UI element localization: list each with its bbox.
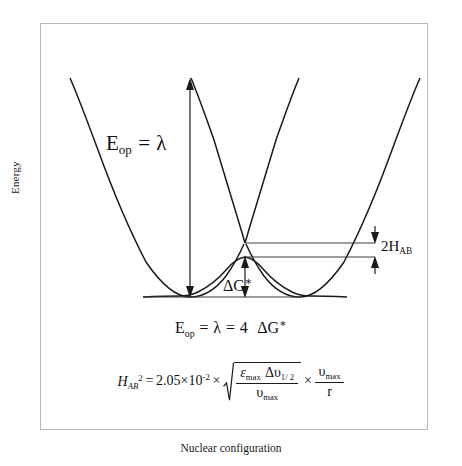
tail-fraction: υmax r (315, 364, 345, 401)
formula-equals: = (145, 373, 153, 388)
relation-star: ∗ (279, 317, 287, 329)
relation-coefficient: 4 (240, 319, 248, 336)
left-diabatic-parabola (70, 78, 244, 297)
radical-fraction: εmaxΔυ1/ 2 υmax (236, 365, 298, 402)
formula-times-1: × (181, 373, 189, 388)
coupling-arrow-lower-head (371, 256, 379, 268)
relation-e: E (175, 319, 185, 336)
relation-lambda: λ (213, 319, 221, 336)
delta-nu-symbol: Δυ (265, 365, 281, 380)
formula-lhs: HAB2 (118, 374, 143, 391)
delta-g-star: ∗ (245, 275, 253, 287)
energy-relation-equation: Eop=λ=4ΔG∗ (0, 318, 462, 338)
formula-times-3: × (304, 373, 312, 388)
formula-h-symbol: H (118, 374, 128, 389)
delta-g-symbol: ΔG (223, 277, 245, 294)
eop-e: E (106, 131, 119, 155)
coupling-label: 2HAB (381, 239, 412, 256)
radical-contents: εmaxΔυ1/ 2 υmax (234, 362, 301, 402)
relation-delta-g: ΔG (257, 319, 279, 336)
formula-coefficient: 2.05 (156, 373, 181, 388)
formula-h-subscript: AB (128, 381, 139, 391)
upper-adiabatic-left-branch (191, 78, 245, 243)
coupling-subscript: AB (399, 246, 412, 256)
formula-h-exponent: 2 (138, 373, 142, 383)
coupling-formula: HAB2 =2.05×10-2× εmaxΔυ1/ 2 υmax × υmax … (0, 362, 462, 402)
relation-e-subscript: op (185, 328, 195, 339)
radical-numerator: εmaxΔυ1/ 2 (236, 365, 298, 384)
eop-lambda: λ (156, 131, 166, 155)
energy-diagram-figure: Energy Nuclear configuration Eop=λ 2HAB … (0, 0, 462, 466)
formula-exponent: -2 (203, 372, 210, 382)
coupling-value: 2H (381, 238, 399, 254)
formula-radical: εmaxΔυ1/ 2 υmax (223, 362, 301, 402)
formula-times-2: × (213, 373, 221, 388)
tail-numerator: υmax (315, 364, 345, 383)
optical-transition-label: Eop=λ (106, 133, 166, 156)
tail-denominator: r (315, 383, 345, 401)
activation-barrier-label: ΔG∗ (223, 276, 253, 294)
y-axis-title: Energy (10, 161, 21, 194)
formula-base: 10 (189, 373, 203, 388)
tail-nu-subscript: max (326, 371, 341, 381)
nu-max-subscript: max (263, 392, 278, 402)
relation-equals-1: = (200, 319, 209, 336)
x-axis-title: Nuclear configuration (0, 443, 462, 455)
radical-denominator: υmax (236, 384, 298, 402)
delta-nu-subscript: 1/ 2 (281, 372, 294, 382)
eop-equals: = (138, 131, 150, 155)
right-diabatic-parabola (246, 78, 420, 297)
relation-equals-2: = (226, 319, 235, 336)
coupling-arrow-upper-head (371, 232, 379, 244)
epsilon-subscript: max (246, 372, 261, 382)
tail-nu-symbol: υ (319, 364, 326, 379)
upper-adiabatic-right-branch (245, 78, 299, 243)
radical-sign-icon (223, 362, 234, 402)
eop-subscript: op (119, 142, 132, 157)
